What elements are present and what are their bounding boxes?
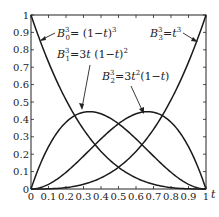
bernstein-basis-chart: 00.10.20.30.40.50.60.70.80.91 00.10.20.3… <box>0 0 219 217</box>
arrow-b2 <box>131 86 143 112</box>
arrowhead-b1 <box>79 103 84 110</box>
curve-b3 <box>31 15 206 189</box>
y-tick-labels: 00.10.20.30.40.50.60.70.80.91 <box>13 10 29 195</box>
label-b2: B32=3t2(1−t) <box>101 69 169 85</box>
ticks <box>31 15 206 189</box>
y-tick-label: 0.8 <box>13 44 29 55</box>
plot-frame <box>31 15 206 189</box>
curve-b2 <box>31 112 206 189</box>
y-tick-label: 0.1 <box>13 166 29 177</box>
y-tick-label: 0.5 <box>13 97 29 108</box>
x-tick-label: 1 <box>203 191 209 202</box>
label-b0: B30= (1−t)3 <box>56 26 116 42</box>
x-tick-label: 0.1 <box>41 191 57 202</box>
y-tick-label: 0 <box>23 184 29 195</box>
label-b1: B31=3t (1−t)2 <box>56 47 128 63</box>
x-tick-labels: 00.10.20.30.40.50.60.70.80.91 <box>28 191 209 202</box>
y-tick-label: 0.7 <box>13 62 29 73</box>
x-tick-label: 0.7 <box>146 191 162 202</box>
x-tick-label: 0.2 <box>58 191 74 202</box>
arrowhead-b0 <box>40 36 46 41</box>
y-tick-label: 0.4 <box>13 114 29 125</box>
arrow-b1 <box>82 65 90 108</box>
x-axis-label: t <box>211 188 216 201</box>
label-b3: B33=t3 <box>149 26 181 42</box>
curve-b0 <box>31 15 206 189</box>
x-tick-label: 0.8 <box>163 191 179 202</box>
x-tick-label: 0.6 <box>128 191 144 202</box>
y-tick-label: 1 <box>23 10 29 21</box>
x-tick-label: 0.5 <box>111 191 127 202</box>
x-tick-label: 0.9 <box>181 191 197 202</box>
x-tick-label: 0.4 <box>93 191 109 202</box>
curves <box>31 15 206 189</box>
y-tick-label: 0.3 <box>13 131 29 142</box>
x-tick-label: 0.3 <box>76 191 92 202</box>
y-tick-label: 0.9 <box>13 27 29 38</box>
y-tick-label: 0.2 <box>13 149 29 160</box>
y-tick-label: 0.6 <box>13 79 29 90</box>
